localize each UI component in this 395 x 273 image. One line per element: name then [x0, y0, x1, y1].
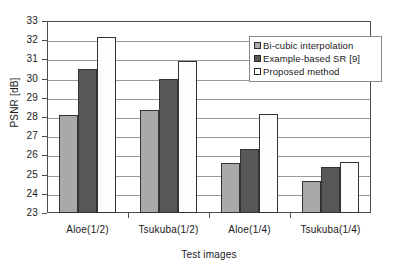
x-axis-category-label: Tsukuba(1/4): [276, 224, 386, 235]
y-axis-tick-label: 30: [8, 74, 38, 84]
y-axis-tick-label: 27: [8, 131, 38, 141]
bar: [78, 69, 97, 213]
x-axis-tick-mark: [209, 213, 210, 218]
y-axis-tick-label: 25: [8, 170, 38, 180]
y-axis-tick-label: 24: [8, 189, 38, 199]
y-axis-tick-label: 31: [8, 54, 38, 64]
bar: [59, 115, 78, 213]
bar: [240, 149, 259, 213]
y-axis-tick-mark: [42, 213, 47, 214]
bar: [302, 181, 321, 213]
bar: [97, 37, 116, 213]
bar: [178, 61, 197, 213]
y-axis-tick-label: 26: [8, 150, 38, 160]
legend-label: Bi-cubic interpolation: [263, 40, 353, 51]
legend-item: Bi-cubic interpolation: [254, 40, 377, 51]
bar: [159, 79, 178, 213]
legend-swatch-icon: [254, 42, 261, 49]
legend-swatch-icon: [254, 68, 261, 75]
y-axis-tick-label: 28: [8, 112, 38, 122]
y-axis-tick-label: 32: [8, 35, 38, 45]
y-axis-tick-label: 23: [8, 208, 38, 218]
legend-item: Proposed method: [254, 66, 377, 77]
x-axis-tick-mark: [290, 213, 291, 218]
legend-item: Example-based SR [9]: [254, 53, 377, 64]
bar: [140, 110, 159, 213]
legend-swatch-icon: [254, 55, 261, 62]
bar: [221, 163, 240, 213]
legend-label: Proposed method: [263, 66, 340, 77]
bar: [321, 167, 340, 213]
x-axis-tick-mark: [128, 213, 129, 218]
legend-label: Example-based SR [9]: [263, 53, 360, 64]
bar: [259, 114, 278, 213]
x-axis-title: Test images: [47, 249, 371, 260]
chart-legend: Bi-cubic interpolationExample-based SR […: [249, 36, 382, 82]
y-axis-tick-label: 29: [8, 93, 38, 103]
bar-chart-figure: PSNR [dB] 3332313029282726252423 Aloe(1/…: [0, 0, 395, 273]
bar: [340, 162, 359, 213]
y-axis-tick-label: 33: [8, 16, 38, 26]
